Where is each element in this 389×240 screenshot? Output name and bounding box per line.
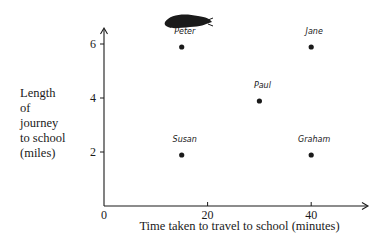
data-point: Susan xyxy=(173,135,197,158)
data-points: PeterJanePaulSusanGraham xyxy=(173,27,331,158)
point-marker xyxy=(309,152,314,157)
y-tick-label: 4 xyxy=(90,91,96,105)
y-tick-label: 2 xyxy=(90,145,96,159)
x-tick-label: 0 xyxy=(101,208,107,222)
point-label: Graham xyxy=(298,135,330,144)
point-label: Paul xyxy=(254,81,272,90)
data-point: Graham xyxy=(298,135,330,158)
data-point: Peter xyxy=(174,27,196,50)
axis-ticks: 02040246 xyxy=(90,37,317,222)
x-tick-label: 20 xyxy=(202,208,214,222)
data-point: Jane xyxy=(304,27,323,50)
point-marker xyxy=(257,98,262,103)
point-label: Peter xyxy=(174,27,196,36)
data-point: Paul xyxy=(254,81,272,104)
scatter-plot: 02040246 PeterJanePaulSusanGraham xyxy=(0,0,389,240)
point-marker xyxy=(179,44,184,49)
x-tick-label: 40 xyxy=(305,208,317,222)
point-marker xyxy=(179,152,184,157)
point-label: Susan xyxy=(173,135,197,144)
y-tick-label: 6 xyxy=(90,37,96,51)
point-label: Jane xyxy=(304,27,323,36)
point-marker xyxy=(309,44,314,49)
axes xyxy=(101,28,369,210)
